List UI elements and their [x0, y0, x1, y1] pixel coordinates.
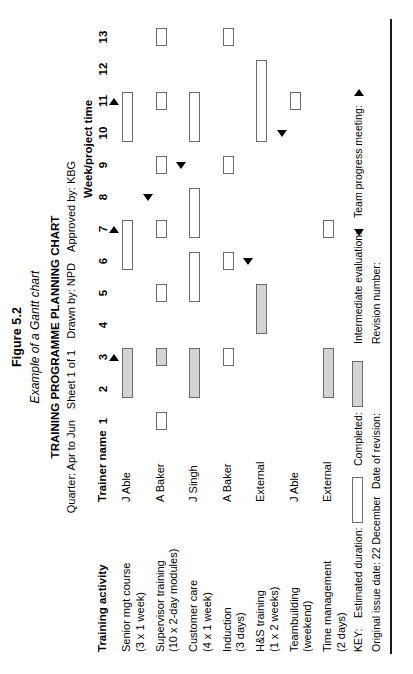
activity-label: Induction (3 days)	[221, 607, 248, 652]
intermediate-evaluation-icon	[243, 258, 253, 265]
week-label-12: 12	[97, 58, 109, 80]
key-swatch-estimated	[352, 477, 363, 523]
gantt-bar-completed[interactable]	[122, 348, 133, 398]
key-completed: Completed:	[352, 412, 364, 466]
key-team-progress-meeting: Team progress meeting:	[352, 105, 364, 218]
figure-caption: Example of a Gantt chart	[28, 0, 42, 674]
key-revision-number: Revision number:	[370, 262, 382, 344]
trainer-label: A Baker	[221, 463, 235, 502]
key-swatch-completed	[352, 361, 363, 407]
meta-quarter: Quarter: Apr to Jun	[65, 420, 77, 513]
gantt-bar-estimated[interactable]	[156, 284, 167, 302]
trainer-label: J Singh	[187, 465, 201, 502]
week-label-13: 13	[97, 26, 109, 48]
week-label-10: 10	[97, 122, 109, 144]
column-header-trainer: Trainer name	[96, 430, 108, 502]
activity-label: Supervisor training (10 x 2-day modules)	[154, 549, 181, 652]
chart-title: TRAINING PROGRAMME PLANNING CHART	[49, 0, 61, 674]
key-intermediate-evaluation: Intermediate evaluation:	[352, 232, 364, 344]
gantt-chart-page: Figure 5.2 Example of a Gantt chart TRAI…	[0, 0, 413, 674]
key-date-of-revision: Date of revision:	[370, 413, 382, 489]
trainer-label: External	[321, 462, 335, 502]
chart-meta-row: Quarter: Apr to Jun Sheet 1 of 1 Drawn b…	[65, 0, 77, 674]
week-label-3: 3	[97, 346, 109, 368]
trainer-label: J Able	[120, 472, 134, 502]
week-label-11: 11	[97, 90, 109, 112]
column-header-week: Week/project time	[82, 100, 94, 198]
gantt-bar-estimated[interactable]	[156, 412, 167, 430]
activity-label: Teambuilding (weekend)	[288, 587, 315, 652]
team-progress-meeting-icon	[109, 354, 119, 361]
week-label-5: 5	[97, 282, 109, 304]
gantt-bar-completed[interactable]	[189, 348, 200, 398]
intermediate-evaluation-icon	[176, 162, 186, 169]
gantt-bar-estimated[interactable]	[323, 220, 334, 238]
week-label-9: 9	[97, 154, 109, 176]
activity-label: Senior mgt course (3 x 1 week)	[120, 563, 147, 652]
gantt-bar-estimated[interactable]	[156, 28, 167, 46]
gantt-bar-estimated[interactable]	[189, 252, 200, 302]
team-progress-meeting-icon	[109, 226, 119, 233]
gantt-bar-completed[interactable]	[323, 348, 334, 398]
gantt-bar-estimated[interactable]	[122, 220, 133, 270]
gantt-bar-estimated[interactable]	[223, 252, 234, 270]
week-label-2: 2	[97, 378, 109, 400]
figure-number: Figure 5.2	[10, 0, 24, 674]
week-label-6: 6	[97, 250, 109, 272]
gantt-bar-estimated[interactable]	[223, 348, 234, 366]
week-label-4: 4	[97, 314, 109, 336]
column-header-activity: Training activity	[96, 564, 108, 652]
meta-approved-by: Approved by: KBG	[65, 161, 77, 252]
gantt-bar-estimated[interactable]	[156, 92, 167, 110]
rotated-page-wrapper: Figure 5.2 Example of a Gantt chart TRAI…	[0, 0, 413, 674]
meta-drawn-by: Drawn by: NPD	[65, 263, 77, 339]
gantt-bar-estimated[interactable]	[189, 188, 200, 238]
trainer-label: A Baker	[154, 463, 168, 502]
week-label-8: 8	[97, 186, 109, 208]
gantt-bar-completed[interactable]	[156, 348, 167, 366]
intermediate-evaluation-icon	[277, 130, 287, 137]
trainer-label: J Able	[288, 472, 302, 502]
meta-sheet: Sheet 1 of 1	[65, 350, 77, 409]
week-label-1: 1	[97, 410, 109, 432]
gantt-bar-estimated[interactable]	[189, 92, 200, 142]
gantt-bar-estimated[interactable]	[156, 156, 167, 174]
page-top-rule	[390, 19, 392, 654]
activity-label: H&S training (1 x 2 weeks)	[254, 587, 281, 652]
gantt-bar-estimated[interactable]	[223, 156, 234, 174]
gantt-bar-estimated[interactable]	[122, 92, 133, 142]
key-estimated-duration: Estimated duration:	[352, 528, 364, 618]
gantt-bar-estimated[interactable]	[156, 220, 167, 238]
team-progress-meeting-icon	[354, 89, 364, 96]
activity-label: Customer care (4 x 1 week)	[187, 580, 214, 652]
intermediate-evaluation-icon	[143, 194, 153, 201]
activity-label: Time management (2 days)	[321, 561, 348, 652]
gantt-bar-completed[interactable]	[256, 284, 267, 334]
gantt-bar-estimated[interactable]	[290, 92, 301, 110]
key-original-issue-date: Original issue date: 22 December	[370, 496, 382, 652]
intermediate-evaluation-icon	[354, 229, 364, 236]
trainer-label: External	[254, 462, 268, 502]
week-label-7: 7	[97, 218, 109, 240]
key-label: KEY:	[352, 629, 364, 652]
team-progress-meeting-icon	[109, 98, 119, 105]
gantt-bar-estimated[interactable]	[256, 60, 267, 142]
gantt-bar-estimated[interactable]	[223, 28, 234, 46]
